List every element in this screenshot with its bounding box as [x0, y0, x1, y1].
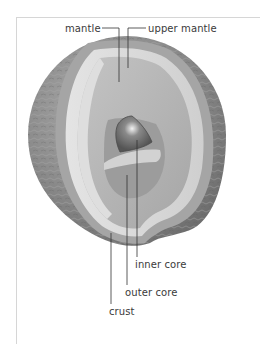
- label-inner-core: inner core: [135, 259, 187, 270]
- label-crust: crust: [109, 306, 135, 317]
- label-mantle: mantle: [65, 23, 101, 34]
- label-outer-core: outer core: [125, 287, 177, 298]
- label-upper-mantle: upper mantle: [148, 23, 217, 34]
